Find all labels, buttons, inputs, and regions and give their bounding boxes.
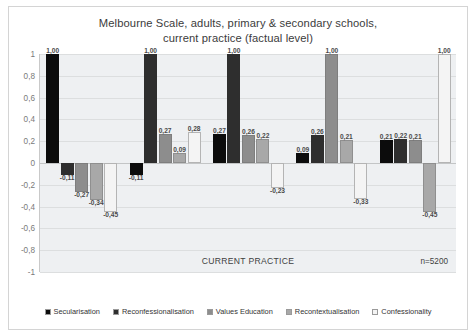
y-axis-tick: 0,6 [24,93,35,102]
bar-value-label: -0,33 [353,198,368,205]
bar: 1,00 [227,54,240,163]
gridline [40,272,456,273]
bar-value-label: -0,34 [89,199,104,206]
bar: -0,33 [354,163,367,199]
bar: -0,11 [61,163,74,175]
bar: 1,00 [325,54,338,163]
bar-rect [144,54,157,163]
y-axis-tick: -1 [28,268,35,277]
bar-value-label: -0,23 [270,187,285,194]
chart-title-line-1: Melbourne Scale, adults, primary & secon… [9,16,467,31]
y-axis-tick: 0,4 [24,115,35,124]
y-axis-tick: -0,2 [21,180,35,189]
bar: -0,23 [271,163,284,188]
bar-rect [90,163,103,200]
legend-label: Secularisation [54,307,100,316]
legend-swatch-icon [207,309,213,315]
bar-value-label: -0,27 [74,191,89,198]
bar-value-label: 0,09 [173,146,186,153]
bar: 0,27 [213,134,226,163]
legend-label: Recontextualisation [295,307,360,316]
sample-size-annotation: n=5200 [420,257,448,266]
bar: -0,34 [90,163,103,200]
legend-label: Reconfessionalisation [122,307,194,316]
bar-rect [227,54,240,163]
bar-value-label: 1,00 [46,47,59,54]
bar-value-label: 0,21 [380,133,393,140]
bar-value-label: 1,00 [144,47,157,54]
bar: 1,00 [144,54,157,163]
legend-swatch-icon [286,309,292,315]
bar: 0,26 [311,135,324,163]
bar-value-label: 0,09 [296,146,309,153]
legend-item-reconfessionalisation[interactable]: Reconfessionalisation [113,307,194,316]
bar-value-label: -0,45 [422,211,437,218]
legend-item-secularisation[interactable]: Secularisation [45,307,100,316]
bar-value-label: 0,22 [394,132,407,139]
bar-groups: 1,00-0,11-0,27-0,34-0,45-0,111,000,270,0… [40,54,456,272]
chart-frame: Melbourne Scale, adults, primary & secon… [8,6,468,330]
bar: 0,09 [173,153,186,163]
y-axis-tick: -0,4 [21,202,35,211]
bar-rect [380,140,393,163]
bar: -0,45 [423,163,436,212]
legend-label: Confessionality [381,307,431,316]
bar-value-label: 0,27 [159,127,172,134]
bar-value-label: 1,00 [438,47,451,54]
legend-swatch-icon [372,309,378,315]
bar-group: -0,111,000,270,090,28 [123,54,206,272]
bar-rect [340,140,353,163]
legend-item-values education[interactable]: Values Education [207,307,273,316]
bar-value-label: 0,28 [188,125,201,132]
y-axis-tick: 0,2 [24,137,35,146]
bar: 0,21 [409,140,422,163]
chart-title-line-2: current practice (factual level) [9,31,467,46]
bar-value-label: 0,26 [311,128,324,135]
bar-rect [394,139,407,163]
bar-rect [188,132,201,163]
bar: 0,27 [159,134,172,163]
bar: 0,09 [296,153,309,163]
bar-rect [423,163,436,212]
y-axis-tick: 0 [30,159,35,168]
bar-rect [213,134,226,163]
bar-rect [173,153,186,163]
bar-value-label: 1,00 [325,47,338,54]
bar: -0,45 [104,163,117,212]
bar-rect [256,139,269,163]
legend-label: Values Education [216,307,273,316]
bar: 0,21 [380,140,393,163]
bar-group: 0,210,220,21-0,451,00 [374,54,457,272]
bar-value-label: 0,21 [409,133,422,140]
bar: 1,00 [438,54,451,163]
bar-value-label: 0,21 [340,133,353,140]
bar-rect [325,54,338,163]
bar-rect [46,54,59,163]
x-axis-label: CURRENT PRACTICE [40,256,456,266]
y-axis-tick: -0,6 [21,224,35,233]
bar-value-label: -0,45 [103,211,118,218]
bar-value-label: 0,27 [213,127,226,134]
y-axis-tick: 1 [30,50,35,59]
legend-item-confessionality[interactable]: Confessionality [372,307,431,316]
bar: 0,22 [394,139,407,163]
bar-rect [296,153,309,163]
bar: 0,22 [256,139,269,163]
bar-group: 0,271,000,260,22-0,23 [207,54,290,272]
bar: 0,28 [188,132,201,163]
bar-rect [409,140,422,163]
legend-item-recontextualisation[interactable]: Recontextualisation [286,307,360,316]
bar-rect [242,135,255,163]
bar-value-label: 1,00 [228,47,241,54]
bar-group: 1,00-0,11-0,27-0,34-0,45 [40,54,123,272]
bar-value-label: -0,11 [60,174,75,181]
bar-rect [271,163,284,188]
chart-title: Melbourne Scale, adults, primary & secon… [9,16,467,46]
bar-rect [438,54,451,163]
plot-area: 10,80,60,40,20-0,2-0,4-0,6-0,8-1 1,00-0,… [39,54,456,272]
bar-value-label: -0,11 [129,174,144,181]
bar-rect [354,163,367,199]
bar-value-label: 0,26 [242,128,255,135]
bar: 1,00 [46,54,59,163]
bar: -0,27 [75,163,88,192]
